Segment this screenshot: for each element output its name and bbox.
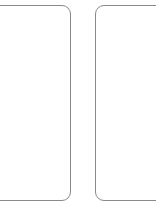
left-rounded-rectangle	[0, 5, 71, 201]
image-canvas	[0, 0, 156, 218]
right-rounded-rectangle	[95, 5, 156, 201]
shape-layer	[0, 0, 156, 218]
